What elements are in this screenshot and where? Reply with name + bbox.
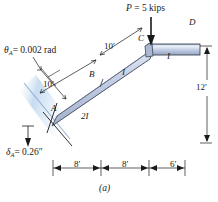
dimension-label-vertical: 12′: [196, 83, 207, 92]
structural-beam-figure: θA= 0.002 rad δA= 0.26″ PP = 5 kips = 5 …: [0, 0, 218, 202]
dimension-label-h2: 8′: [122, 160, 128, 169]
dimension-label-h3: 6′: [170, 160, 176, 169]
member-stiffness-label-bc: I: [122, 68, 125, 77]
dimension-vertical-12: [200, 46, 212, 143]
figure-canvas: [0, 0, 218, 202]
deflection-annotation-label: δA= 0.26″: [6, 148, 43, 158]
dimension-chain-horizontal: [53, 160, 185, 176]
load-arrow-P: [147, 17, 155, 46]
load-label: PP = 5 kips = 5 kips: [126, 4, 165, 14]
dimension-label-h1: 8′: [74, 160, 80, 169]
member-stiffness-label-ab: 2I: [81, 112, 89, 121]
joint-label-D: D: [189, 18, 196, 27]
joint-label-A: A: [51, 104, 57, 113]
figure-caption: (a): [99, 184, 110, 194]
joint-label-B: B: [89, 70, 95, 79]
joint-C-connection: [145, 42, 153, 57]
member-length-label-bc: 10′: [104, 42, 115, 51]
member-stiffness-label-cd: I: [167, 52, 170, 61]
inclined-beam-AC: [52, 49, 153, 126]
member-length-label-ab: 10′: [43, 80, 54, 89]
joint-label-C: C: [138, 34, 144, 43]
rotation-annotation-label: θA= 0.002 rad: [4, 46, 56, 56]
horizontal-beam-CD: [148, 44, 200, 55]
deflection-arrow-delta: [22, 126, 34, 147]
